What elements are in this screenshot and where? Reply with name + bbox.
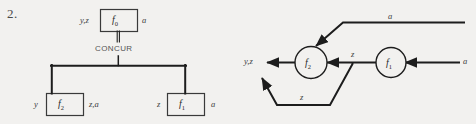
edge-z-middle-label: z — [351, 49, 354, 59]
edge-a-right-label: a — [463, 56, 467, 66]
tree-child-f2-input-label: y — [34, 99, 38, 109]
edge-a-top-label: a — [388, 11, 392, 21]
tree-node-label-f0: f0 — [112, 14, 118, 27]
tree-root-output-label: a — [142, 15, 146, 25]
figure-canvas: 2. — [0, 0, 476, 124]
tree-connector-label: CONCUR — [95, 44, 133, 53]
dataflow-output-label: y,z — [244, 56, 253, 66]
tree-node-label-f1: f1 — [179, 98, 185, 111]
tree-child-f1-input-label: z — [157, 99, 160, 109]
tree-child-f1-output-label: a — [211, 99, 215, 109]
tree-child-f2-output-label: z,a — [89, 99, 99, 109]
tree-node-box-f2 — [47, 94, 84, 116]
tree-node-box-f0 — [101, 10, 138, 32]
figure-linework — [0, 0, 476, 124]
dataflow-node-label-f1: f1 — [386, 57, 392, 70]
edge-a-top-path — [316, 23, 465, 47]
tree-node-label-f2: f2 — [58, 98, 64, 111]
dataflow-node-label-f2: f2 — [305, 57, 311, 70]
edge-z-feedback-label: z — [300, 92, 303, 102]
tree-node-box-f1 — [168, 94, 205, 116]
dataflow-edges — [262, 23, 465, 106]
tree-root-input-label: y,z — [80, 15, 89, 25]
tree-connectors — [51, 31, 186, 94]
